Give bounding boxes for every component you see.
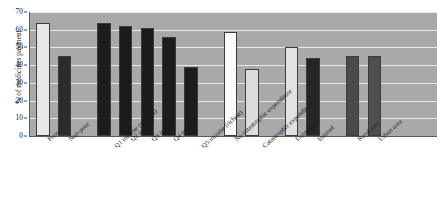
y-axis-tick-mark bbox=[24, 29, 27, 30]
y-axis-tick-70: 70 bbox=[16, 8, 23, 15]
bar bbox=[97, 23, 111, 136]
y-axis-tick-mark bbox=[24, 82, 27, 83]
bar bbox=[58, 56, 72, 136]
gridline bbox=[30, 12, 437, 13]
y-axis-tick-mark bbox=[24, 100, 27, 101]
bar bbox=[346, 56, 360, 136]
y-axis-tick-mark bbox=[24, 12, 27, 13]
y-axis-tick-40: 40 bbox=[16, 61, 23, 68]
bar bbox=[119, 26, 133, 136]
y-axis-tick-mark bbox=[24, 65, 27, 66]
bar-chart-figure: % of medicines payment 010203040506070 P… bbox=[0, 0, 440, 218]
y-axis-tick-20: 20 bbox=[16, 97, 23, 104]
y-axis-tick-mark bbox=[24, 118, 27, 119]
y-axis-tick-labels: 010203040506070 bbox=[0, 12, 27, 136]
x-axis-tick-labels: PoorNon-poorQ1 income (poorest)Q2 income… bbox=[30, 137, 437, 212]
y-axis-tick-10: 10 bbox=[16, 115, 23, 122]
bar bbox=[36, 23, 50, 136]
y-axis-tick-mark bbox=[24, 136, 27, 137]
y-axis-tick-30: 30 bbox=[16, 79, 23, 86]
y-axis-tick-60: 60 bbox=[16, 26, 23, 33]
y-axis-tick-0: 0 bbox=[19, 132, 23, 139]
y-axis-tick-50: 50 bbox=[16, 44, 23, 51]
figure-caption bbox=[8, 209, 432, 218]
y-axis-tick-mark bbox=[24, 47, 27, 48]
